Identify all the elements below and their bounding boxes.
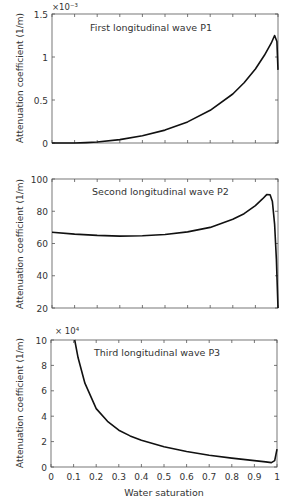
x-tick-label: 0.8 <box>225 472 240 482</box>
axes-box <box>52 179 278 308</box>
x-tick-label: 0.7 <box>202 472 216 482</box>
x-tick-label: 0.5 <box>157 472 171 482</box>
panel-title: First longitudinal wave P1 <box>90 22 212 33</box>
x-tick-label: 0.2 <box>89 472 103 482</box>
y-tick-label: 6 <box>41 386 47 396</box>
x-tick-label: 0.4 <box>134 472 149 482</box>
panel-p1: First longitudinal wave P1 ×10⁻³ Attenua… <box>15 2 278 149</box>
panel-p3: Third longitudinal wave P3 × 10⁴ Attenua… <box>15 326 280 498</box>
panel-title: Third longitudinal wave P3 <box>93 347 220 358</box>
series-line-p2 <box>52 195 278 308</box>
axes-box <box>52 14 278 143</box>
x-tick-label: 0.6 <box>179 472 194 482</box>
x-tick-label: 1 <box>274 472 280 482</box>
y-multiplier: × 10⁴ <box>55 326 80 336</box>
y-tick-label: 2 <box>41 437 47 447</box>
axes-box <box>51 340 277 467</box>
x-tick-label: 0.9 <box>247 472 262 482</box>
figure: First longitudinal wave P1 ×10⁻³ Attenua… <box>0 0 291 504</box>
y-tick-label: 20 <box>37 304 49 314</box>
y-tick-label: 40 <box>37 271 49 281</box>
y-tick-label: 100 <box>31 175 48 185</box>
y-tick-label: 10 <box>36 336 48 346</box>
x-tick-label: 0 <box>48 472 54 482</box>
y-tick-label: 1 <box>42 53 48 63</box>
y-tick-label: 8 <box>41 361 47 371</box>
x-tick-label: 0.3 <box>112 472 126 482</box>
x-axis-label: Water saturation <box>124 487 204 498</box>
y-axis-label: Attenuation coefficient (1/m) <box>15 338 25 468</box>
y-axis-label: Attenuation coefficient (1/m) <box>15 13 25 143</box>
panel-title: Second longitudinal wave P2 <box>92 186 229 197</box>
series-line-p1 <box>52 36 278 144</box>
panel-p2: Second longitudinal wave P2 Attenuation … <box>15 175 278 314</box>
y-tick-label: 80 <box>37 207 49 217</box>
y-axis-label: Attenuation coefficient (1/m) <box>15 179 25 309</box>
y-tick-label: 0 <box>41 463 47 473</box>
y-multiplier: ×10⁻³ <box>52 2 78 12</box>
y-tick-label: 60 <box>37 239 49 249</box>
y-tick-label: 0.5 <box>34 96 48 106</box>
series-line-p3 <box>75 340 277 463</box>
y-tick-label: 1.5 <box>34 10 48 20</box>
y-tick-label: 4 <box>41 412 47 422</box>
x-tick-label: 0.1 <box>66 472 80 482</box>
y-tick-label: 0 <box>42 139 48 149</box>
